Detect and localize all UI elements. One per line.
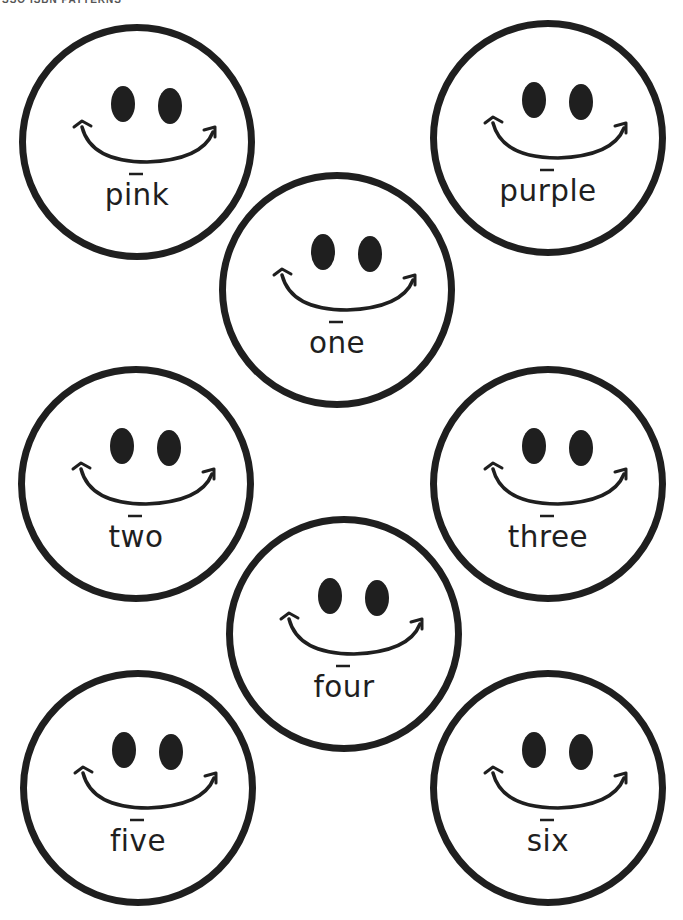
face-label: two — [31, 518, 242, 554]
smiley-face-icon — [430, 20, 666, 256]
face-label: six — [443, 822, 654, 858]
smiley-face-icon — [430, 670, 666, 906]
smiley-face-six: six — [430, 670, 666, 906]
smiley-face-four: four — [226, 516, 462, 752]
face-label: pink — [32, 176, 243, 212]
page-header-text: SSO ISBN PATTERNS — [2, 0, 122, 5]
smiley-face-icon — [18, 366, 254, 602]
smiley-face-icon — [219, 172, 455, 408]
smiley-face-icon — [226, 516, 462, 752]
smiley-face-five: five — [20, 670, 256, 906]
smiley-face-icon — [20, 670, 256, 906]
face-label: five — [33, 822, 244, 858]
smiley-face-two: two — [18, 366, 254, 602]
smiley-face-icon — [430, 366, 666, 602]
smiley-face-three: three — [430, 366, 666, 602]
smiley-face-purple: purple — [430, 20, 666, 256]
face-label: purple — [443, 172, 654, 208]
smiley-face-one: one — [219, 172, 455, 408]
face-label: one — [232, 324, 443, 360]
face-label: four — [239, 668, 450, 704]
face-label: three — [443, 518, 654, 554]
